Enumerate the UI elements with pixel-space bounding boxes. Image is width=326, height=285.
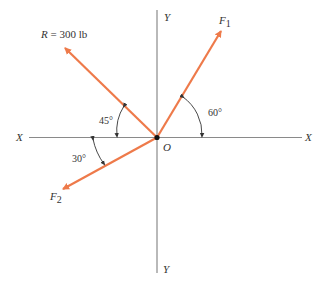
- angle-arc-45: [117, 106, 124, 136]
- angle-label-60: 60°: [208, 107, 222, 118]
- angle-arc-60: [183, 97, 202, 136]
- x-axis-left-label: X: [15, 131, 24, 143]
- angle-label-30: 30°: [72, 153, 86, 164]
- x-axis-right-label: X: [304, 131, 313, 143]
- angle-label-45: 45°: [99, 115, 113, 126]
- vector-f2-label: F2: [49, 190, 62, 205]
- vector-r-label: R = 300 lb: [40, 28, 88, 40]
- vector-f1-label: F1: [218, 14, 231, 29]
- force-diagram: X X Y Y O R = 300 lb F1 F2 45° 60° 30°: [0, 0, 326, 285]
- angle-arc-30: [93, 139, 104, 164]
- origin-point: [154, 135, 159, 140]
- origin-label: O: [163, 141, 171, 153]
- y-axis-bottom-label: Y: [163, 263, 171, 275]
- y-axis-top-label: Y: [164, 11, 172, 23]
- vector-f1: [157, 31, 221, 138]
